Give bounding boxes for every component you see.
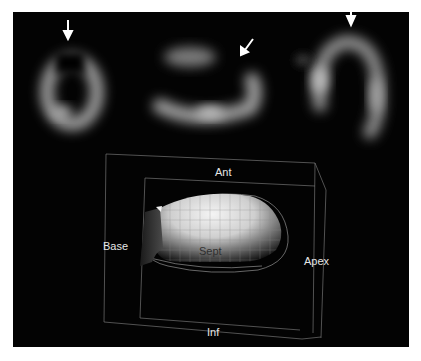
spect-figure bbox=[0, 0, 421, 361]
short-axis-slice bbox=[47, 52, 97, 124]
arrow-icon bbox=[347, 4, 355, 25]
arrow-icon bbox=[64, 20, 72, 39]
horizontal-long-axis-slice bbox=[295, 42, 382, 132]
lv-surface bbox=[140, 190, 290, 270]
label-inferior: Inf bbox=[207, 326, 219, 338]
vertical-long-axis-slice bbox=[160, 47, 255, 118]
label-base: Base bbox=[103, 240, 128, 252]
label-apex: Apex bbox=[304, 255, 329, 267]
arrow-icon bbox=[241, 39, 253, 55]
label-anterior: Ant bbox=[215, 166, 232, 178]
label-septum: Sept bbox=[199, 245, 222, 257]
